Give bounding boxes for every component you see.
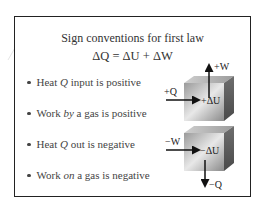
heat-out-label: −Q [209,179,223,190]
energy-decrease-label: −ΔU [200,145,220,156]
work-out-label: +W [214,61,230,72]
cube-heat-in-work-out: +Q +W +ΔU [164,61,234,121]
energy-increase-label: +ΔU [201,95,221,106]
cube-side-face [224,76,234,121]
work-in-label: −W [165,136,181,147]
cube-work-in-heat-out: −W −ΔU −Q [165,126,234,190]
cube-side-face [224,126,234,171]
sign-convention-diagram: +Q +W +ΔU −W −ΔU −Q [0,0,261,208]
heat-in-label: +Q [164,86,178,97]
